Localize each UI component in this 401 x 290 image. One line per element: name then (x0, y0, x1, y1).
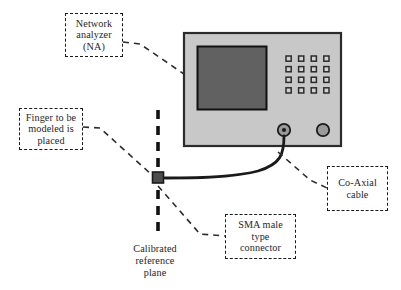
keypad-button[interactable] (286, 67, 291, 72)
callout-finger-line1: Finger to be (26, 112, 76, 124)
keypad-button[interactable] (299, 88, 304, 93)
callout-coax-line1: Co-Axial (338, 177, 377, 189)
keypad-button[interactable] (311, 77, 316, 82)
keypad-button[interactable] (311, 88, 316, 93)
label-plane-line3: plane (112, 267, 198, 279)
keypad-button[interactable] (324, 77, 329, 82)
test-port-2[interactable] (317, 124, 329, 136)
display-screen (198, 47, 267, 110)
callout-coaxial-cable: Co-Axial cable (327, 166, 388, 211)
keypad-button[interactable] (286, 88, 291, 93)
sma-connector-block (153, 172, 164, 183)
callout-finger-line2: modeled is (28, 123, 73, 135)
keypad-button[interactable] (311, 56, 316, 61)
keypad-button[interactable] (299, 67, 304, 72)
label-plane-line1: Calibrated (112, 243, 198, 255)
callout-network-analyzer-line3: (NA) (83, 41, 105, 53)
callout-sma-connector: SMA male type connector (225, 214, 296, 259)
leader-network-analyzer (123, 42, 184, 74)
keypad-button[interactable] (324, 88, 329, 93)
leader-finger (83, 127, 152, 175)
callout-finger-placement: Finger to be modeled is placed (19, 108, 83, 150)
figure-canvas: Network analyzer (NA) Finger to be model… (0, 0, 401, 290)
callout-sma-line1: SMA male (238, 219, 283, 231)
keypad-button[interactable] (286, 56, 291, 61)
callout-network-analyzer: Network analyzer (NA) (65, 13, 123, 57)
keypad-button[interactable] (299, 56, 304, 61)
callout-sma-line3: connector (240, 242, 281, 254)
callout-network-analyzer-line2: analyzer (76, 29, 111, 41)
test-port-1-center (282, 128, 286, 132)
keypad-button[interactable] (299, 77, 304, 82)
callout-sma-line2: type (252, 231, 270, 243)
callout-coax-line2: cable (347, 189, 369, 201)
keypad-button[interactable] (311, 67, 316, 72)
network-analyzer-device (184, 33, 341, 146)
keypad-button[interactable] (324, 67, 329, 72)
leader-coaxial-cable (278, 152, 327, 188)
keypad-button[interactable] (286, 77, 291, 82)
keypad-button[interactable] (324, 56, 329, 61)
callout-finger-line3: placed (37, 135, 64, 147)
label-plane-line2: reference (112, 255, 198, 267)
label-calibrated-reference-plane: Calibrated reference plane (112, 243, 198, 278)
callout-network-analyzer-line1: Network (76, 18, 112, 30)
leader-sma-connector (158, 186, 225, 236)
